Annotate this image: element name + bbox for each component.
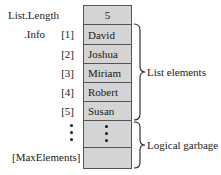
list-elements-label: List elements [147,66,206,78]
logical-garbage-label: Logical garbage [147,139,218,151]
list-elements-brace-icon [134,24,145,120]
logical-garbage-brace-icon [134,122,145,168]
